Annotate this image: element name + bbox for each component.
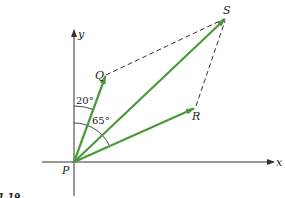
point-label-s: S [223, 4, 231, 17]
x-axis-label: x [276, 156, 283, 169]
angle-label-65: 65° [92, 115, 110, 126]
point-label-q: Q [95, 69, 104, 82]
angle-arc-20 [74, 106, 93, 109]
vector-ps [74, 19, 225, 162]
point-label-p: P [61, 164, 70, 177]
dashed-line-qs [106, 19, 224, 75]
figure-caption-fragment: 1.19 [0, 192, 20, 198]
point-label-r: R [191, 110, 200, 123]
vector-addition-diagram: y x Q S R P 20° 65° 1.19 [0, 0, 285, 198]
y-axis-label: y [77, 28, 85, 41]
angle-label-20: 20° [76, 95, 94, 106]
